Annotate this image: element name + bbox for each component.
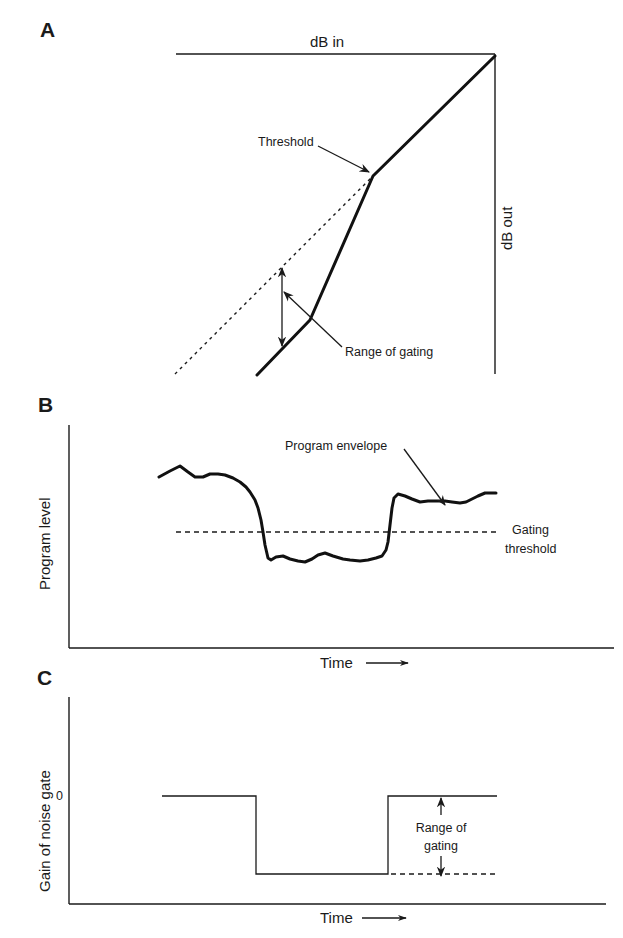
gating-threshold-label-line1: Gating <box>512 523 549 537</box>
range-of-gating-label-line1: Range of <box>416 821 467 835</box>
panel-b-letter: B <box>38 393 53 416</box>
x-axis-label-db-in: dB in <box>310 33 344 50</box>
x-axis-label-time: Time <box>320 654 353 671</box>
program-envelope-curve <box>159 466 496 562</box>
gain-step-curve <box>162 796 497 874</box>
panel-a: A dB in dB out Threshold Range of gating <box>40 18 515 375</box>
noise-gate-figure: A dB in dB out Threshold Range of gating… <box>0 0 623 938</box>
gate-transfer-curve <box>257 56 495 375</box>
threshold-label: Threshold <box>258 135 314 149</box>
program-envelope-label: Program envelope <box>285 439 387 453</box>
y-tick-zero: 0 <box>56 789 63 803</box>
range-of-gating-label-line2: gating <box>424 839 458 853</box>
y-axis-label-program-level: Program level <box>36 497 53 590</box>
panel-c-letter: C <box>37 666 52 689</box>
panel-b: B Program level Time Gating threshold Pr… <box>36 393 614 671</box>
range-of-gating-label: Range of gating <box>345 345 433 359</box>
threshold-pointer-arrow <box>318 146 369 172</box>
unity-dashed-line <box>175 176 373 374</box>
y-axis-label-db-out: dB out <box>498 206 515 250</box>
gating-threshold-label-line2: threshold <box>505 542 556 556</box>
panel-a-letter: A <box>40 18 55 41</box>
x-axis-label-time: Time <box>320 909 353 926</box>
y-axis-label-gain: Gain of noise gate <box>36 770 53 892</box>
panel-c: C Gain of noise gate 0 Time Range of gat… <box>36 666 606 926</box>
